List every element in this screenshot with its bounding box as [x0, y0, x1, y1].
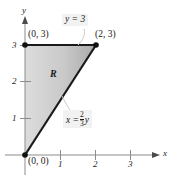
x-tick-label-1: 1	[58, 160, 63, 169]
equation-variable: y	[85, 115, 89, 125]
y-tick-label-3: 3	[12, 41, 17, 50]
vertex-dot-2-3	[93, 42, 99, 48]
y-tick-label-1: 1	[12, 114, 17, 123]
fraction-two-thirds: 23	[80, 111, 85, 127]
point-label-0-0: (0, 0)	[28, 157, 49, 167]
equation-label-x-equals-two-thirds-y: x =23y	[63, 110, 92, 128]
x-axis-label: x	[163, 149, 167, 158]
x-axis-arrow	[152, 152, 160, 158]
equation-lhs: x =	[66, 115, 79, 125]
vertex-dot-origin	[22, 152, 28, 158]
fraction-denominator: 3	[80, 120, 85, 128]
leader-line-y-equals-3	[78, 29, 85, 45]
x-tick-label-3: 3	[128, 160, 133, 169]
point-label-0-3: (0, 3)	[28, 30, 49, 40]
coordinate-plot	[0, 0, 174, 179]
vertex-dot-0-3	[22, 42, 28, 48]
y-axis-label: y	[22, 6, 26, 15]
y-tick-label-2: 2	[12, 77, 17, 86]
leader-line-x-equals-two-thirds-y	[62, 96, 70, 110]
point-label-2-3: (2, 3)	[95, 30, 116, 40]
graph-figure: y x 1 2 3 1 2 3 (0, 3) (2, 3) (0, 0) R y…	[0, 0, 174, 179]
equation-label-y-equals-3: y = 3	[62, 14, 88, 26]
y-axis-arrow	[22, 16, 28, 24]
region-label-R: R	[50, 69, 57, 79]
x-tick-label-2: 2	[93, 160, 98, 169]
